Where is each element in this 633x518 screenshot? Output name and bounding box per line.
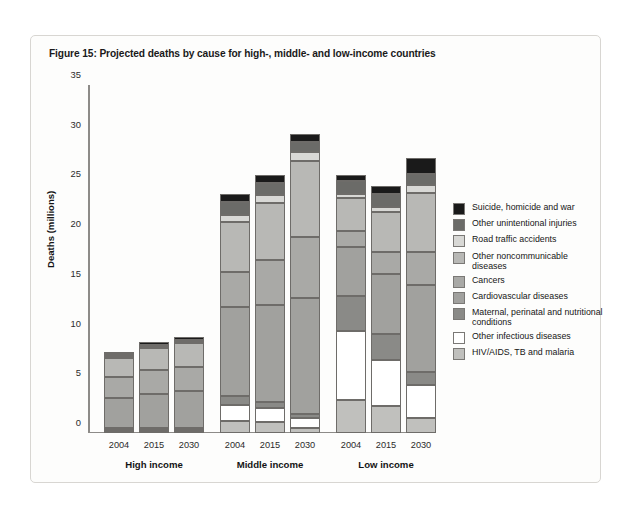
- x-tick-low-income-2030: 2030: [398, 440, 444, 450]
- y-tick-20: 20: [71, 218, 81, 229]
- segment-road-traffic-accidents: [255, 195, 285, 203]
- segment-other-infectious-diseases: [336, 331, 366, 401]
- segment-other-infectious-diseases: [104, 429, 134, 431]
- segment-cardiovascular-diseases: [220, 307, 250, 396]
- segment-hiv-aids-tb-and-malaria: [371, 406, 401, 433]
- segment-road-traffic-accidents: [220, 215, 250, 222]
- legend-label: Cardiovascular diseases: [472, 291, 568, 301]
- legend-swatch-icon: [453, 203, 465, 215]
- segment-cancers: [406, 252, 436, 285]
- segment-hiv-aids-tb-and-malaria: [220, 421, 250, 433]
- x-tick-middle-income-2030: 2030: [282, 440, 328, 450]
- segment-cancers: [336, 231, 366, 247]
- segment-other-noncommunicable-diseases: [139, 348, 169, 370]
- segment-suicide-homicide-and-war: [139, 342, 169, 344]
- segment-cancers: [371, 252, 401, 274]
- segment-other-infectious-diseases: [406, 385, 436, 418]
- segment-maternal-perinatal-and-nutritional-conditions: [406, 372, 436, 385]
- legend-item[interactable]: Cancers: [453, 275, 603, 288]
- group-label-low-income: Low income: [336, 459, 436, 470]
- segment-other-unintentional-injuries: [290, 142, 320, 152]
- y-tick-0: 0: [76, 417, 81, 428]
- y-tick-25: 25: [71, 168, 81, 179]
- segment-hiv-aids-tb-and-malaria: [139, 431, 169, 433]
- segment-other-noncommunicable-diseases: [104, 358, 134, 377]
- segment-other-noncommunicable-diseases: [174, 343, 204, 367]
- y-tick-5: 5: [76, 367, 81, 378]
- legend-swatch-icon: [453, 252, 465, 264]
- segment-hiv-aids-tb-and-malaria: [255, 422, 285, 433]
- chart-legend: Suicide, homicide and warOther unintenti…: [453, 202, 603, 363]
- legend-label: Other unintentional injuries: [472, 218, 577, 228]
- segment-cardiovascular-diseases: [139, 394, 169, 428]
- legend-swatch-icon: [453, 348, 465, 360]
- segment-other-unintentional-injuries: [255, 183, 285, 195]
- segment-hiv-aids-tb-and-malaria: [406, 418, 436, 433]
- legend-item[interactable]: Other infectious diseases: [453, 331, 603, 344]
- segment-other-noncommunicable-diseases: [336, 198, 366, 231]
- legend-item[interactable]: Maternal, perinatal and nutritional cond…: [453, 307, 603, 328]
- segment-hiv-aids-tb-and-malaria: [104, 431, 134, 433]
- group-label-high-income: High income: [104, 459, 204, 470]
- legend-swatch-icon: [453, 308, 465, 320]
- segment-cardiovascular-diseases: [255, 305, 285, 402]
- segment-other-unintentional-injuries: [174, 340, 204, 342]
- segment-road-traffic-accidents: [290, 152, 320, 161]
- segment-other-noncommunicable-diseases: [406, 193, 436, 252]
- legend-item[interactable]: Other unintentional injuries: [453, 218, 603, 231]
- segment-cardiovascular-diseases: [371, 274, 401, 334]
- segment-cardiovascular-diseases: [336, 247, 366, 296]
- chart-plot-area: 05101520253035 200420152030High income20…: [88, 85, 418, 433]
- segment-other-infectious-diseases: [290, 418, 320, 428]
- segment-other-infectious-diseases: [255, 408, 285, 422]
- segment-maternal-perinatal-and-nutritional-conditions: [220, 396, 250, 405]
- segment-cancers: [220, 272, 250, 307]
- legend-swatch-icon: [453, 219, 465, 231]
- figure-title: Figure 15: Projected deaths by cause for…: [49, 48, 436, 59]
- segment-cancers: [104, 377, 134, 398]
- segment-other-infectious-diseases: [139, 429, 169, 431]
- segment-suicide-homicide-and-war: [290, 134, 320, 142]
- segment-road-traffic-accidents: [371, 207, 401, 212]
- segment-cancers: [139, 370, 169, 394]
- segment-cancers: [255, 260, 285, 305]
- legend-label: Other noncommunicable diseases: [472, 251, 603, 272]
- y-tick-10: 10: [71, 317, 81, 328]
- segment-hiv-aids-tb-and-malaria: [174, 431, 204, 433]
- segment-other-unintentional-injuries: [406, 174, 436, 186]
- segment-hiv-aids-tb-and-malaria: [290, 428, 320, 433]
- segment-other-unintentional-injuries: [336, 181, 366, 194]
- legend-swatch-icon: [453, 235, 465, 247]
- segment-maternal-perinatal-and-nutritional-conditions: [371, 334, 401, 361]
- legend-swatch-icon: [453, 276, 465, 288]
- segment-other-infectious-diseases: [220, 405, 250, 421]
- legend-label: HIV/AIDS, TB and malaria: [472, 347, 574, 357]
- segment-cardiovascular-diseases: [290, 298, 320, 414]
- legend-item[interactable]: Cardiovascular diseases: [453, 291, 603, 304]
- legend-label: Road traffic accidents: [472, 234, 556, 244]
- segment-suicide-homicide-and-war: [104, 352, 134, 354]
- legend-label: Other infectious diseases: [472, 331, 571, 341]
- segment-suicide-homicide-and-war: [255, 175, 285, 184]
- segment-other-noncommunicable-diseases: [220, 222, 250, 272]
- legend-item[interactable]: Road traffic accidents: [453, 234, 603, 247]
- segment-other-noncommunicable-diseases: [290, 161, 320, 238]
- segment-road-traffic-accidents: [406, 185, 436, 193]
- y-tick-35: 35: [71, 69, 81, 80]
- legend-item[interactable]: Suicide, homicide and war: [453, 202, 603, 215]
- legend-label: Suicide, homicide and war: [472, 202, 575, 212]
- segment-cardiovascular-diseases: [174, 391, 204, 428]
- segment-hiv-aids-tb-and-malaria: [336, 400, 366, 433]
- segment-other-unintentional-injuries: [139, 345, 169, 347]
- y-tick-15: 15: [71, 267, 81, 278]
- segment-maternal-perinatal-and-nutritional-conditions: [290, 414, 320, 418]
- legend-label: Cancers: [472, 275, 505, 285]
- legend-item[interactable]: HIV/AIDS, TB and malaria: [453, 347, 603, 360]
- legend-swatch-icon: [453, 332, 465, 344]
- segment-maternal-perinatal-and-nutritional-conditions: [255, 402, 285, 408]
- segment-other-noncommunicable-diseases: [255, 203, 285, 260]
- segment-other-unintentional-injuries: [104, 354, 134, 356]
- x-tick-high-income-2030: 2030: [166, 440, 212, 450]
- segment-suicide-homicide-and-war: [336, 175, 366, 182]
- legend-item[interactable]: Other noncommunicable diseases: [453, 251, 603, 272]
